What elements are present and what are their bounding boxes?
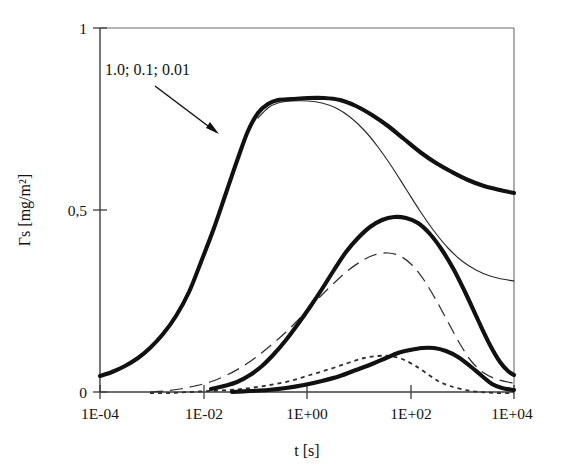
y-tick-label-1: 1 bbox=[79, 20, 87, 37]
x-tick-label-1e-02: 1E-02 bbox=[185, 405, 223, 422]
chart-svg: 1 0,5 0 1E-04 1E-02 1E+00 1E+02 1E+04 t … bbox=[0, 0, 574, 473]
y-tick-label-0-5: 0,5 bbox=[68, 202, 88, 219]
chart-figure: 1 0,5 0 1E-04 1E-02 1E+00 1E+02 1E+04 t … bbox=[0, 0, 574, 473]
x-tick-label-1e+00: 1E+00 bbox=[286, 405, 328, 422]
chart-background bbox=[0, 0, 574, 473]
x-tick-label-1e-04: 1E-04 bbox=[81, 405, 119, 422]
y-axis-title: Γs [mg/m²] bbox=[16, 174, 34, 246]
x-axis-title: t [s] bbox=[294, 442, 319, 459]
x-tick-label-1e+02: 1E+02 bbox=[390, 405, 431, 422]
y-tick-label-0: 0 bbox=[79, 384, 87, 401]
annotation-label: 1.0; 0.1; 0.01 bbox=[105, 61, 190, 78]
x-tick-label-1e+04: 1E+04 bbox=[491, 405, 533, 422]
